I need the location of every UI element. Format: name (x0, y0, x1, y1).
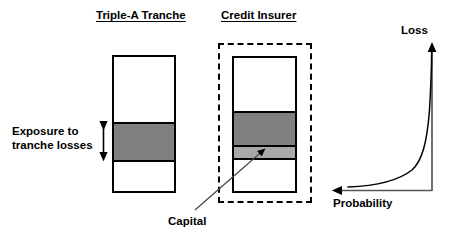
chart-axes (337, 47, 432, 191)
insurer-exposure-band (234, 111, 295, 147)
exposure-label-line-1: Exposure to (12, 125, 78, 138)
capital-label: Capital (168, 215, 206, 228)
tranche-exposure-band (114, 122, 174, 162)
title-credit-insurer: Credit Insurer (221, 9, 296, 22)
insurer-capital-band (234, 147, 295, 160)
exposure-label-line-2: tranche losses (12, 139, 93, 152)
diagram-canvas: Triple-A Tranche Credit Insurer Exposure… (0, 0, 455, 242)
tranche-bar (112, 55, 176, 193)
chart-loss-curve (348, 52, 432, 187)
chart-y-axis-label: Loss (401, 24, 428, 37)
chart-x-axis-label: Probability (333, 197, 392, 210)
title-triple-a-tranche: Triple-A Tranche (96, 9, 186, 22)
insurer-bar (232, 56, 297, 193)
